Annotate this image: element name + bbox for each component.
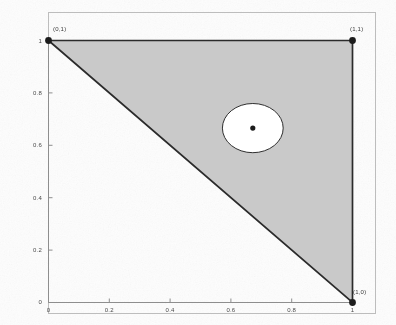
- x-tick-label-0-2: 0.2: [105, 307, 114, 313]
- y-tick-label-0: 0: [28, 299, 42, 305]
- vertex-dot-1-1: [349, 37, 356, 44]
- x-tick-label-0-6: 0.6: [226, 307, 235, 313]
- x-tick-label-0-8: 0.8: [287, 307, 296, 313]
- y-axis-ticks: [49, 41, 53, 303]
- y-tick-label-0-4: 0.4: [22, 195, 42, 201]
- vertex-dot-1-0: [349, 299, 356, 306]
- annotation-vertex-1-0: (1,0): [353, 289, 366, 295]
- annotation-vertex-1-1: (1,1): [350, 26, 363, 32]
- x-tick-label-0-4: 0.4: [166, 307, 175, 313]
- annotation-vertex-0-1: (0,1): [53, 26, 66, 32]
- x-tick-label-1: 1: [351, 307, 355, 313]
- x-tick-label-0: 0: [47, 307, 51, 313]
- x-axis-ticks: [49, 299, 353, 303]
- vertex-dot-0-1: [45, 37, 52, 44]
- plot-area: [0, 0, 396, 325]
- circle-center-dot: [250, 126, 255, 131]
- y-tick-label-0-2: 0.2: [22, 247, 42, 253]
- figure-canvas: 0 0.2 0.4 0.6 0.8 1 0 0.2 0.4 0.6 0.8 1 …: [0, 0, 396, 325]
- y-tick-label-0-6: 0.6: [22, 142, 42, 148]
- y-tick-label-0-8: 0.8: [22, 90, 42, 96]
- y-tick-label-1: 1: [28, 38, 42, 44]
- filled-triangle: [49, 41, 353, 303]
